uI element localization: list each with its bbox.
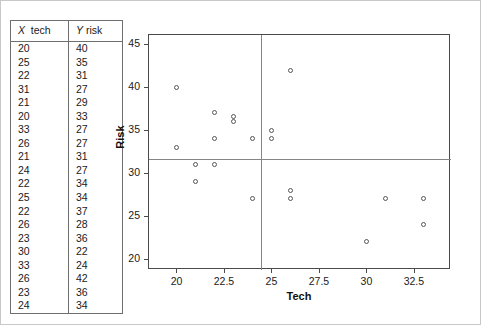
y-tick-label: 40 (114, 80, 140, 92)
column-header-y-name: risk (86, 24, 102, 36)
cell-x: 31 (11, 83, 69, 97)
cell-x: 26 (11, 137, 69, 151)
table-row: 2642 (11, 272, 123, 286)
data-point (288, 196, 293, 201)
cell-x: 22 (11, 177, 69, 191)
y-tick-label: 30 (114, 166, 140, 178)
table-row: 2129 (11, 96, 123, 110)
x-tick-mark (176, 269, 177, 273)
table-row: 3324 (11, 259, 123, 273)
data-point (212, 136, 217, 141)
y-tick-label: 45 (114, 37, 140, 49)
table-row: 2131 (11, 150, 123, 164)
data-point (250, 136, 255, 141)
plot-area (148, 34, 450, 269)
table-row: 2040 (11, 42, 123, 56)
table-row: 3327 (11, 123, 123, 137)
data-point (174, 85, 179, 90)
table-row: 2534 (11, 191, 123, 205)
data-point (364, 239, 369, 244)
data-point (212, 162, 217, 167)
table-header-row: X tech Y risk (11, 21, 123, 42)
cell-x: 25 (11, 191, 69, 205)
cell-x: 20 (11, 110, 69, 124)
x-tick-mark (271, 269, 272, 273)
cell-x: 22 (11, 69, 69, 83)
cell-x: 21 (11, 96, 69, 110)
data-point (288, 188, 293, 193)
vertical-reference-line (261, 35, 262, 270)
data-point (231, 119, 236, 124)
data-point (383, 196, 388, 201)
data-point (250, 196, 255, 201)
horizontal-reference-line (149, 159, 451, 160)
cell-x: 26 (11, 218, 69, 232)
x-tick-label: 32.5 (394, 275, 434, 287)
y-tick-label: 20 (114, 252, 140, 264)
table-row: 2427 (11, 164, 123, 178)
cell-x: 30 (11, 245, 69, 259)
data-point (212, 110, 217, 115)
cell-x: 23 (11, 232, 69, 246)
table-body: 2040253522313127212920333327262721312427… (11, 42, 123, 314)
x-tick-label: 25 (251, 275, 291, 287)
data-point (193, 162, 198, 167)
figure-container: X tech Y risk 20402535223131272129203333… (0, 0, 481, 325)
x-tick-label: 20 (156, 275, 196, 287)
cell-x: 21 (11, 150, 69, 164)
x-tick-label: 27.5 (299, 275, 339, 287)
table-row: 2627 (11, 137, 123, 151)
table-row: 2535 (11, 56, 123, 70)
table-row: 2336 (11, 232, 123, 246)
table-row: 2231 (11, 69, 123, 83)
x-tick-mark (224, 269, 225, 273)
data-point (269, 136, 274, 141)
data-point (421, 196, 426, 201)
cell-x: 22 (11, 205, 69, 219)
table-row: 2234 (11, 177, 123, 191)
data-point (193, 179, 198, 184)
y-tick-label: 35 (114, 123, 140, 135)
cell-x: 20 (11, 42, 69, 56)
data-point (421, 222, 426, 227)
cell-x: 24 (11, 299, 69, 313)
y-axis-title: Risk (114, 107, 126, 167)
cell-x: 24 (11, 164, 69, 178)
data-point (269, 128, 274, 133)
x-tick-mark (366, 269, 367, 273)
data-table: X tech Y risk 20402535223131272129203333… (10, 20, 123, 314)
data-point (288, 68, 293, 73)
cell-x: 25 (11, 56, 69, 70)
x-tick-label: 30 (346, 275, 386, 287)
cell-x: 26 (11, 272, 69, 286)
table-row: 2237 (11, 205, 123, 219)
x-tick-mark (414, 269, 415, 273)
x-axis-title: Tech (148, 290, 450, 302)
column-header-y-var: Y (76, 24, 83, 36)
table-row: 2033 (11, 110, 123, 124)
table-row: 2628 (11, 218, 123, 232)
table-row: 3022 (11, 245, 123, 259)
data-point (174, 145, 179, 150)
scatter-plot: Risk Tech 2025303540452022.52527.53032.5 (108, 19, 474, 311)
table-row: 2336 (11, 286, 123, 300)
column-header-x: X tech (11, 21, 69, 42)
cell-x: 23 (11, 286, 69, 300)
table-row: 3127 (11, 83, 123, 97)
y-tick-label: 25 (114, 209, 140, 221)
table-row: 2434 (11, 299, 123, 313)
cell-x: 33 (11, 123, 69, 137)
cell-x: 33 (11, 259, 69, 273)
column-header-x-var: X (18, 24, 25, 36)
x-tick-mark (319, 269, 320, 273)
column-header-x-name: tech (31, 24, 51, 36)
x-tick-label: 22.5 (204, 275, 244, 287)
